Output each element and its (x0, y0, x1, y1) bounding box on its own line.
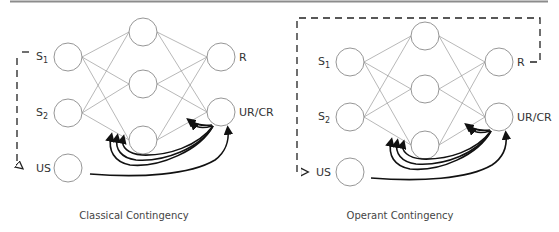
node-s1 (336, 48, 364, 76)
node-s2 (336, 103, 364, 131)
hidden-node-top (129, 18, 157, 46)
node-urcr (485, 103, 513, 131)
hidden-node-middle (129, 70, 157, 98)
hidden-node-middle (411, 75, 439, 103)
node-urcr (207, 98, 235, 126)
arc-urcr-loop-1 (390, 131, 491, 169)
dashed-feedback-line (17, 58, 22, 168)
node-us (54, 154, 82, 182)
label-s1: S1 (36, 50, 48, 65)
node-s1 (54, 43, 82, 71)
caption-classical: Classical Contingency (79, 210, 188, 221)
label-s2: S2 (318, 110, 330, 125)
label-s1: S1 (318, 55, 330, 70)
hidden-node-bottom (129, 126, 157, 154)
label-urcr: UR/CR (239, 106, 274, 119)
label-r: R (517, 56, 525, 69)
node-r (485, 48, 513, 76)
label-urcr: UR/CR (517, 111, 552, 124)
node-us (336, 158, 364, 186)
node-r (207, 43, 235, 71)
hidden-node-top (411, 22, 439, 50)
label-s2: S2 (36, 106, 48, 121)
operant-network: S1 S2 US R UR/CR Operant Contingency (297, 18, 552, 221)
node-s2 (54, 99, 82, 127)
caption-operant: Operant Contingency (347, 210, 454, 221)
hidden-node-bottom (411, 131, 439, 159)
classical-network: S1 S2 US R UR/CR Classical Contingency (17, 18, 274, 221)
label-us: US (36, 162, 51, 175)
label-r: R (239, 51, 247, 64)
contingency-diagrams: S1 S2 US R UR/CR Classical Contingency (0, 0, 559, 232)
label-us: US (316, 166, 331, 179)
